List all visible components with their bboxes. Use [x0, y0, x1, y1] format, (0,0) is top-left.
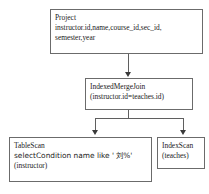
node-indexscan-operator: IndexScan: [162, 141, 200, 151]
node-join-operator: IndexedMergeJoin: [90, 82, 188, 92]
edge-join-stem: [128, 110, 129, 118]
node-table-scan: TableScan selectCondition name like ' 刘%…: [9, 137, 152, 182]
node-project: Project instructor.id,name,course_id,sec…: [50, 9, 203, 54]
node-index-scan: IndexScan (teaches): [157, 137, 205, 169]
arrowhead-join-to-tablescan: [92, 130, 98, 135]
node-tablescan-relation: (instructor): [14, 161, 147, 171]
node-indexscan-relation: (teaches): [162, 151, 200, 161]
node-join-predicate: (instructor.id=teaches.id): [90, 92, 188, 102]
node-project-columns-line2: semester,year: [55, 33, 198, 43]
edge-join-bus: [95, 118, 184, 119]
arrowhead-project-to-join: [125, 72, 131, 77]
node-tablescan-condition: selectCondition name like ' 刘%': [14, 151, 147, 161]
node-indexed-merge-join: IndexedMergeJoin (instructor.id=teaches.…: [85, 78, 193, 110]
node-project-operator: Project: [55, 13, 198, 23]
arrowhead-join-to-indexscan: [180, 130, 186, 135]
query-plan-diagram: Project instructor.id,name,course_id,sec…: [0, 0, 209, 194]
node-tablescan-operator: TableScan: [14, 141, 147, 151]
edge-project-to-join: [128, 54, 129, 73]
node-project-columns-line1: instructor.id,name,course_id,sec_id,: [55, 23, 198, 33]
